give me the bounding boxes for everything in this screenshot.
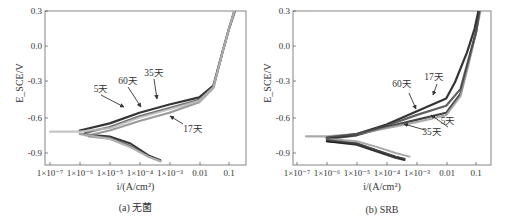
series-annotation: 35天 — [422, 127, 442, 137]
panel-a-sterile: 1×10⁻⁷1×10⁻⁶1×10⁻⁵1×10⁻⁴1×10⁻³0.010.10.3… — [14, 6, 246, 214]
x-tick-label: 1×10⁻⁷ — [37, 168, 63, 178]
series-annotation: 5天 — [94, 84, 109, 94]
panel-b-srb: 1×10⁻⁷1×10⁻⁶1×10⁻⁵1×10⁻⁴1×10⁻³0.010.10.3… — [262, 6, 491, 216]
annotation-arrow — [154, 79, 157, 99]
annotation-arrow — [409, 93, 416, 109]
x-tick-label: 1×10⁻⁵ — [97, 168, 123, 178]
x-axis-label: i/(A/cm²) — [363, 181, 400, 193]
y-tick-label: 0.3 — [279, 6, 291, 16]
y-axis-label: E_SCE/V — [14, 63, 25, 103]
y-tick-label: 0.3 — [31, 6, 43, 16]
x-tick-label: 1×10⁻⁴ — [127, 168, 153, 178]
annotation-arrow — [101, 95, 124, 107]
y-tick-label: -0.3 — [28, 76, 43, 86]
annotation-arrow — [170, 116, 183, 124]
x-tick-label: 1×10⁻³ — [404, 168, 430, 178]
x-tick-label: 0.01 — [439, 168, 455, 178]
annotation-arrow — [128, 87, 141, 107]
curve-anodic-17天 — [327, 11, 479, 138]
y-axis-label: E_SCE/V — [262, 63, 273, 103]
x-tick-label: 1×10⁻³ — [157, 168, 183, 178]
curves — [50, 11, 235, 161]
x-tick-label: 1×10⁻⁵ — [344, 168, 370, 178]
y-tick-label: -0.9 — [276, 148, 291, 158]
polarization-figure: 1×10⁻⁷1×10⁻⁶1×10⁻⁵1×10⁻⁴1×10⁻³0.010.10.3… — [0, 0, 507, 219]
series-annotation: 17天 — [183, 124, 203, 134]
plot-frame — [45, 11, 246, 165]
series-annotation: 60天 — [392, 79, 412, 89]
x-tick-label: 0.01 — [192, 168, 208, 178]
y-tick-label: 0.0 — [31, 41, 43, 51]
curve-cathodic-60天 — [80, 134, 161, 161]
series-annotation: 60天 — [118, 76, 138, 86]
x-tick-label: 0.1 — [470, 168, 481, 178]
y-tick-label: -0.6 — [28, 113, 43, 123]
curve-anodic-60天 — [50, 11, 234, 132]
x-axis-label: i/(A/cm²) — [117, 181, 154, 193]
series-annotation: 17天 — [424, 72, 444, 82]
x-tick-label: 1×10⁻⁶ — [67, 168, 93, 178]
panel-caption: (b) SRB — [365, 204, 398, 216]
y-tick-label: -0.3 — [276, 76, 291, 86]
x-tick-label: 1×10⁻⁶ — [314, 168, 340, 178]
panel-caption: (a) 无菌 — [119, 202, 153, 214]
annotation-arrow — [433, 84, 437, 95]
series-annotation: 5天 — [441, 116, 456, 126]
x-tick-label: 1×10⁻⁷ — [284, 168, 310, 178]
x-tick-label: 1×10⁻⁴ — [374, 168, 400, 178]
curve-anodic-60天 — [327, 11, 480, 138]
x-tick-label: 0.1 — [223, 168, 234, 178]
y-tick-label: -0.9 — [28, 148, 43, 158]
series-annotation: 35天 — [144, 68, 164, 78]
y-tick-label: 0.0 — [279, 41, 291, 51]
y-tick-label: -0.6 — [276, 113, 291, 123]
